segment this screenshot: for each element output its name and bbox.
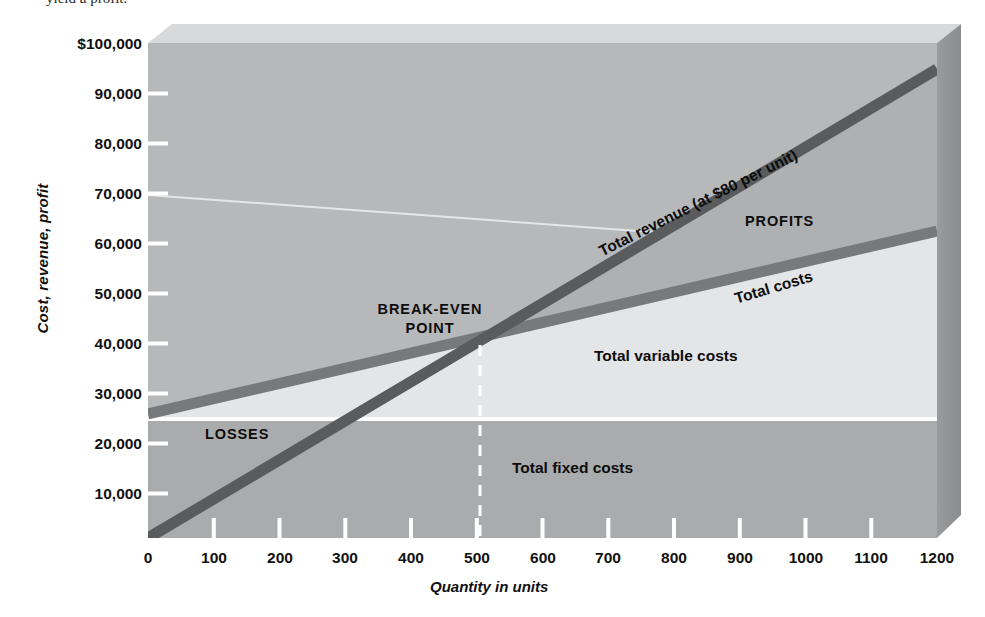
x-tick-300: 300: [310, 549, 380, 567]
y-tick-100000: $100,000: [30, 35, 142, 53]
x-tick-1100: 1100: [836, 549, 906, 567]
x-tick-200: 200: [245, 549, 315, 567]
y-tick-30000: 30,000: [30, 385, 142, 403]
y-axis-title: Cost, revenue, profit: [34, 159, 51, 359]
x-tick-0: 0: [113, 549, 183, 567]
profits-label: PROFITS: [745, 213, 814, 229]
y-tick-20000: 20,000: [30, 435, 142, 453]
plot-top-bevel: [148, 24, 961, 43]
x-tick-400: 400: [376, 549, 446, 567]
y-tick-10000: 10,000: [30, 485, 142, 503]
break-even-point-label: BREAK-EVEN POINT: [355, 300, 505, 338]
x-axis-title: Quantity in units: [430, 578, 548, 595]
plot-side-bevel: [937, 24, 961, 538]
break-even-chart-figure: yield a profit.: [0, 0, 985, 617]
break-even-line-2: POINT: [355, 319, 505, 338]
x-tick-600: 600: [508, 549, 578, 567]
y-tick-80000: 80,000: [30, 135, 142, 153]
x-tick-1200: 1200: [902, 549, 972, 567]
total-variable-costs-label: Total variable costs: [594, 347, 738, 365]
losses-label: LOSSES: [205, 426, 269, 442]
x-tick-100: 100: [179, 549, 249, 567]
x-tick-1000: 1000: [771, 549, 841, 567]
x-tick-500: 500: [442, 549, 512, 567]
y-tick-90000: 90,000: [30, 85, 142, 103]
break-even-line-1: BREAK-EVEN: [355, 300, 505, 319]
x-tick-700: 700: [573, 549, 643, 567]
total-fixed-costs-label: Total fixed costs: [512, 459, 633, 477]
x-tick-900: 900: [705, 549, 775, 567]
x-tick-800: 800: [639, 549, 709, 567]
